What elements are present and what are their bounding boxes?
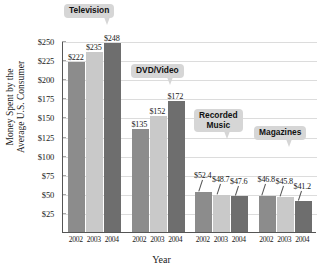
bar-magazines-2002 [259,196,276,232]
y-tick-label: $150 [38,113,54,123]
value-label: $52.4 [194,171,211,180]
bar-television-2004 [104,43,121,232]
x-tick-label: 2002 [132,235,146,244]
x-tick-label: 2004 [105,235,119,244]
y-tick-label: $100 [38,152,54,162]
value-label: $222 [68,53,84,62]
bar-recorded-music-2002 [195,192,212,232]
callout-line: Recorded [199,110,238,120]
y-tick-label: $175 [38,94,54,104]
y-tick-label: $25 [42,209,54,219]
value-label: $46.8 [258,175,275,184]
x-tick-label: 2003 [150,235,164,244]
callout-line: DVD/Video [136,65,179,75]
bar-television-2003 [86,52,103,232]
value-label: $48.7 [212,175,229,184]
bar-dvd-video-2003 [150,116,167,232]
callout-tail [224,131,230,139]
callout-dvd-video: DVD/Video [131,64,184,78]
x-tick-label: 2003 [87,235,101,244]
y-tick-label: $250 [38,37,54,47]
x-tick-label: 2002 [196,235,210,244]
bar-magazines-2003 [277,197,294,232]
x-tick-label: 2002 [69,235,83,244]
callout-tail [104,17,110,25]
value-label: $248 [104,34,120,43]
callout-line: Magazines [259,127,301,137]
y-tick-label: $200 [38,75,54,85]
x-axis-title: Year [0,254,323,265]
bar-magazines-2004 [295,201,312,232]
callout-tail [286,139,292,147]
x-tick-label: 2004 [295,235,309,244]
bar-dvd-video-2004 [168,101,185,232]
x-tick-label: 2003 [214,235,228,244]
x-tick-label: 2004 [232,235,246,244]
callout-line: Television [69,5,109,15]
x-tick-label: 2002 [259,235,273,244]
value-label: $235 [86,43,102,52]
callout-line: Music [206,120,230,130]
callout-magazines: Magazines [254,126,306,140]
bar-recorded-music-2003 [213,195,230,232]
bar-recorded-music-2004 [231,196,248,232]
callout-recorded-music: RecordedMusic [194,109,243,132]
callout-tail [167,77,173,85]
x-axis-ticks: 2002200320042002200320042002200320042002… [62,235,316,249]
y-tick-label: $225 [38,56,54,66]
y-tick-label: $125 [38,133,54,143]
bar-chart: Money Spent by the Average U.S. Consumer… [0,0,323,276]
value-label: $41.2 [294,182,311,191]
y-tick-label: $75 [42,171,54,181]
value-label: $135 [131,120,147,129]
y-axis-ticks: $250$225$200$175$150$125$100$75$50$25 [0,0,62,276]
callout-television: Television [64,4,114,18]
value-label: $47.6 [230,177,247,186]
y-tick-label: $50 [42,190,54,200]
bar-dvd-video-2002 [132,129,149,232]
bar-television-2002 [68,62,85,232]
value-label: $45.8 [276,177,293,186]
x-tick-label: 2004 [168,235,182,244]
x-tick-label: 2003 [277,235,291,244]
value-label: $152 [149,107,165,116]
value-label: $172 [167,92,183,101]
